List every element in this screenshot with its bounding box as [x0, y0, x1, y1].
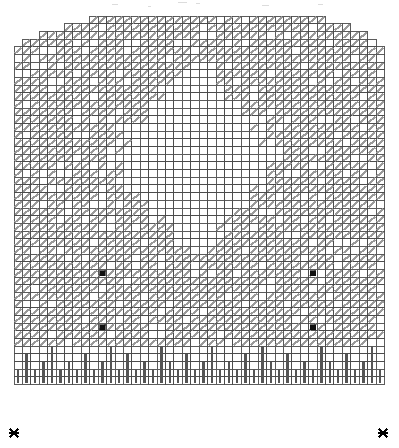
grid-cell [241, 139, 249, 147]
grid-cell [199, 170, 207, 178]
grid-cell [250, 116, 258, 124]
grid-cell [267, 277, 275, 285]
grid-cell [182, 154, 190, 162]
black-square-marker [310, 271, 315, 276]
grid-cell [225, 185, 233, 193]
grid-cell [326, 346, 334, 354]
grid-cell [241, 147, 249, 155]
grid-cell [132, 124, 140, 132]
grid-cell [258, 262, 266, 270]
grid-cell [39, 170, 47, 178]
grid-cell [309, 24, 317, 32]
grid-cell [174, 124, 182, 132]
grid-cell [14, 54, 22, 62]
grid-cell [149, 216, 157, 224]
grid-cell [115, 70, 123, 78]
grid-cell [208, 162, 216, 170]
grid-cell [107, 216, 115, 224]
grid-cell [56, 185, 64, 193]
grid-cell [22, 170, 30, 178]
top-artifacts-layer [112, 2, 323, 7]
grid-cell [351, 154, 359, 162]
grid-cell [300, 62, 308, 70]
grid-cell [191, 223, 199, 231]
grid-cell [199, 77, 207, 85]
grid-cell [258, 162, 266, 170]
grid-cell [208, 185, 216, 193]
grid-cell [208, 77, 216, 85]
grid-cell [216, 193, 224, 201]
grid-cell [123, 147, 131, 155]
grid-cell [182, 131, 190, 139]
grid-cell [174, 223, 182, 231]
grid-cell [208, 31, 216, 39]
grid-cell [166, 216, 174, 224]
grid-cell [233, 147, 241, 155]
grid-cell [90, 93, 98, 101]
grid-cell [123, 185, 131, 193]
grid-cell [73, 362, 81, 370]
grid-cell [208, 216, 216, 224]
grid-cell [359, 269, 367, 277]
grid-cell [123, 162, 131, 170]
grid-cell [149, 139, 157, 147]
grid-cell [149, 354, 157, 362]
grid-cell [216, 216, 224, 224]
grid-cell [115, 354, 123, 362]
grid-cell [22, 300, 30, 308]
grid-cell [174, 39, 182, 47]
grid-cell [132, 223, 140, 231]
grid-cell [191, 231, 199, 239]
grid-cell [317, 177, 325, 185]
grid-cell [225, 147, 233, 155]
grid-cell [166, 200, 174, 208]
grid-cell [241, 16, 249, 24]
grid-cell [39, 47, 47, 55]
grid-cell [81, 131, 89, 139]
grid-cell [199, 70, 207, 78]
grid-cell [191, 216, 199, 224]
grid-cell [326, 246, 334, 254]
grid-cell [182, 93, 190, 101]
grid-cell [199, 131, 207, 139]
grid-cell [292, 362, 300, 370]
grid-cell [140, 292, 148, 300]
grid-cell [216, 185, 224, 193]
grid-cell [166, 124, 174, 132]
grid-cell [174, 116, 182, 124]
grid-cell [191, 124, 199, 132]
grid-cell [250, 346, 258, 354]
grid-cell [216, 200, 224, 208]
grid-cell [90, 354, 98, 362]
grid-cell [166, 208, 174, 216]
grid-cell [73, 70, 81, 78]
grid-cell [182, 239, 190, 247]
grid-cell [376, 316, 384, 324]
grid-cell [140, 147, 148, 155]
grid-cell [174, 131, 182, 139]
grid-cell [309, 147, 317, 155]
grid-cell [241, 246, 249, 254]
grid-cell [275, 216, 283, 224]
grid-cell [107, 223, 115, 231]
grid-cell [292, 47, 300, 55]
grid-cell [140, 185, 148, 193]
grid-cell [309, 362, 317, 370]
grid-cell [157, 116, 165, 124]
grid-cell [275, 354, 283, 362]
grid-cell [174, 139, 182, 147]
grid-cell [123, 346, 131, 354]
grid-cell [233, 193, 241, 201]
grid-cell [191, 70, 199, 78]
grid-cell [283, 300, 291, 308]
grid-cell [250, 131, 258, 139]
grid-cell [123, 131, 131, 139]
grid-cell [166, 170, 174, 178]
grid-cell [191, 162, 199, 170]
grid-cell [191, 339, 199, 347]
grid-cell [166, 177, 174, 185]
grid-cell [166, 346, 174, 354]
grid-cell [56, 216, 64, 224]
grid-cell [73, 346, 81, 354]
grid-cell [140, 124, 148, 132]
